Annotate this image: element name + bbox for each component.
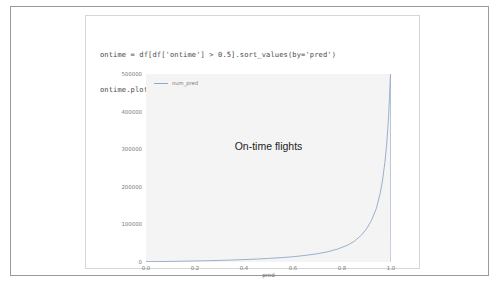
- plot-panel: num_pred On-time flights 010000020000030…: [146, 74, 391, 262]
- y-axis-tick: 200000: [121, 184, 146, 190]
- chart-legend: num_pred: [154, 80, 198, 86]
- legend-label: num_pred: [172, 80, 198, 86]
- notebook-code-cell[interactable]: ontime = df[df['ontime'] > 0.5].sort_val…: [85, 15, 420, 269]
- x-axis-tick: 1.0: [387, 265, 396, 271]
- matplotlib-figure: num_pred On-time flights 010000020000030…: [99, 54, 409, 266]
- x-axis-tick: 0.4: [240, 265, 249, 271]
- y-axis-tick: 400000: [121, 109, 146, 115]
- series-line-num_pred: [146, 74, 391, 262]
- y-axis-tick: 300000: [121, 146, 146, 152]
- plot-line-svg: [146, 74, 391, 262]
- legend-line-swatch: [154, 83, 168, 84]
- y-axis-tick: 500000: [121, 71, 146, 77]
- x-axis-label: pred: [262, 272, 275, 278]
- x-axis-tick: 0.2: [191, 265, 200, 271]
- screenshot-outer-frame: ontime = df[df['ontime'] > 0.5].sort_val…: [10, 6, 489, 276]
- chart-annotation-text: On-time flights: [235, 140, 303, 152]
- x-axis-tick: 0.0: [142, 265, 151, 271]
- x-axis-tick: 0.6: [289, 265, 298, 271]
- y-axis-tick: 100000: [121, 221, 146, 227]
- x-axis-tick: 0.8: [338, 265, 347, 271]
